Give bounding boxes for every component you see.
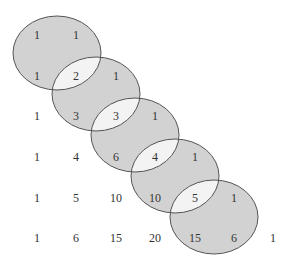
pascal-number: 1	[34, 231, 40, 245]
pascal-number: 15	[110, 231, 122, 245]
pascal-number: 5	[192, 191, 198, 205]
pascal-number: 3	[113, 109, 119, 123]
pascal-number: 6	[231, 231, 237, 245]
ellipse-layer	[13, 16, 258, 254]
pascal-number: 1	[270, 231, 276, 245]
pascal-number: 1	[34, 69, 40, 83]
pascal-number: 1	[73, 28, 79, 42]
pascal-number: 15	[189, 231, 201, 245]
pascal-number: 1	[34, 28, 40, 42]
pascal-number: 1	[231, 191, 237, 205]
pascal-number: 4	[73, 150, 79, 164]
pascal-triangle-diagram: 11121133114641151010511615201561	[0, 0, 296, 268]
pascal-number: 1	[34, 150, 40, 164]
pascal-number: 1	[152, 109, 158, 123]
pascal-number: 6	[73, 231, 79, 245]
pascal-number: 3	[73, 109, 79, 123]
pascal-number: 10	[110, 191, 122, 205]
pascal-number: 4	[152, 150, 158, 164]
pascal-number: 2	[73, 69, 79, 83]
pascal-number: 1	[192, 150, 198, 164]
pascal-number: 6	[113, 150, 119, 164]
pascal-number: 1	[113, 69, 119, 83]
pascal-number: 5	[73, 191, 79, 205]
pascal-number: 10	[149, 191, 161, 205]
pascal-number: 20	[149, 231, 161, 245]
pascal-number: 1	[34, 191, 40, 205]
pascal-number: 1	[34, 109, 40, 123]
